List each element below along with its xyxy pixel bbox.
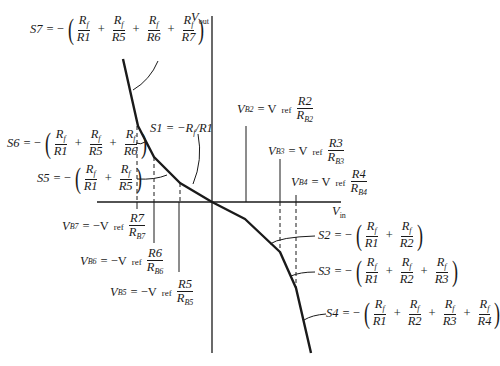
den: R7 xyxy=(181,31,197,44)
plus: + xyxy=(386,228,393,243)
vb6-equation: VB6 = −Vref R6RB6 xyxy=(80,247,166,277)
frac: R6RB6 xyxy=(146,247,165,277)
den: R3 xyxy=(434,273,450,286)
den: R5 xyxy=(118,180,134,193)
num-sub: f xyxy=(374,226,376,235)
s2-equation: S2 = − ( RfR1 + RfR2 ) xyxy=(318,220,423,250)
num: R5 xyxy=(177,278,193,292)
lhs-sub: B2 xyxy=(245,105,254,114)
lhs: V xyxy=(237,102,245,117)
close-paren: ) xyxy=(198,14,204,44)
open-paren: ( xyxy=(356,220,362,250)
den-sub: B6 xyxy=(154,267,163,276)
ref-sub: ref xyxy=(162,288,172,298)
num-sub: f xyxy=(191,20,193,29)
close-paren: ) xyxy=(417,220,423,250)
ref-sub: ref xyxy=(114,222,124,232)
den: R xyxy=(328,150,336,164)
num-sub: f xyxy=(444,262,446,271)
plus: + xyxy=(421,264,428,279)
frac: RfR7 xyxy=(181,14,197,44)
den-sub: B4 xyxy=(358,188,367,197)
plus: + xyxy=(429,306,436,321)
num-sub: f xyxy=(93,169,95,178)
den: R3 xyxy=(442,315,458,328)
num: R4 xyxy=(351,168,367,182)
s1-leader xyxy=(193,134,200,184)
den-sub: B5 xyxy=(184,298,193,307)
frac: RfR6 xyxy=(123,128,139,158)
num-sub: f xyxy=(487,304,489,313)
den-sub: B3 xyxy=(335,157,344,166)
sign: = V xyxy=(258,102,277,117)
s4-equation: S4 = − ( RfR1 + RfR2 + RfR3 + RfR4 ) xyxy=(326,298,500,328)
frac: RfR4 xyxy=(477,298,493,328)
lhs-sub: B6 xyxy=(88,257,97,266)
equals-neg: = − xyxy=(335,228,352,243)
frac: RfR1 xyxy=(53,128,69,158)
num-sub: f xyxy=(156,20,158,29)
lhs: V xyxy=(80,254,88,269)
vb5-equation: VB5 = −Vref R5RB5 xyxy=(110,278,196,308)
s1-tail: /R1 xyxy=(196,121,213,135)
den: R xyxy=(351,181,359,195)
frac: R5RB5 xyxy=(176,278,195,308)
close-paren: ) xyxy=(494,298,500,328)
num-sub: f xyxy=(409,226,411,235)
frac: RfR5 xyxy=(88,128,104,158)
lhs-sub: B3 xyxy=(276,147,285,156)
num-sub: f xyxy=(86,20,88,29)
plus: + xyxy=(133,22,140,37)
den: R5 xyxy=(88,145,104,158)
num-sub: f xyxy=(133,134,135,143)
frac: RfR1 xyxy=(76,14,92,44)
s1-expr: S1 = −R xyxy=(150,121,193,135)
num: R6 xyxy=(147,247,163,261)
frac: RfR1 xyxy=(364,220,380,250)
open-paren: ( xyxy=(356,256,362,286)
num-sub: f xyxy=(98,134,100,143)
s7-name: S7 xyxy=(30,22,43,37)
frac: RfR1 xyxy=(364,256,380,286)
lhs: V xyxy=(62,219,70,234)
plus: + xyxy=(98,22,105,37)
plus: + xyxy=(394,306,401,321)
sign: = −V xyxy=(131,285,157,300)
num-sub: f xyxy=(374,262,376,271)
equals-neg: = − xyxy=(24,136,41,151)
frac: R3RB3 xyxy=(327,137,346,167)
den-sub: B7 xyxy=(136,232,145,241)
den: R1 xyxy=(364,273,380,286)
s5-equation: S5 = − ( RfR1 + RfR5 ) xyxy=(37,163,142,193)
vb3-equation: VB3 = Vref R3RB3 xyxy=(268,137,347,167)
frac: RfR2 xyxy=(407,298,423,328)
num: R3 xyxy=(328,137,344,151)
num-sub: f xyxy=(452,304,454,313)
sign: = −V xyxy=(101,254,127,269)
s6-equation: S6 = − ( RfR1 + RfR5 + RfR6 ) xyxy=(7,128,147,158)
den: R5 xyxy=(111,31,127,44)
den-sub: B2 xyxy=(304,115,313,124)
vb4-equation: VB4 = Vref R4RB4 xyxy=(291,168,370,198)
s5-name: S5 xyxy=(37,171,50,186)
s1-equation: S1 = −Rf/R1 xyxy=(150,122,213,137)
frac: RfR5 xyxy=(111,14,127,44)
s7-leader xyxy=(133,61,158,90)
frac: RfR2 xyxy=(399,220,415,250)
plus: + xyxy=(110,136,117,151)
close-paren: ) xyxy=(141,128,147,158)
vin-symbol: V xyxy=(332,204,340,218)
close-paren: ) xyxy=(452,256,458,286)
sign: = V xyxy=(289,144,308,159)
plus: + xyxy=(464,306,471,321)
plus: + xyxy=(105,171,112,186)
vin-sub: in xyxy=(340,211,346,220)
ref-sub: ref xyxy=(336,178,346,188)
den: R2 xyxy=(407,315,423,328)
plus: + xyxy=(386,264,393,279)
frac: RfR1 xyxy=(83,163,99,193)
s7-equation: S7 = − ( RfR1 + RfR5 + RfR6 + RfR7 ) xyxy=(30,14,204,44)
den: R1 xyxy=(364,237,380,250)
vb2-equation: VB2 = Vref R2RB2 xyxy=(237,95,316,125)
sign: = V xyxy=(312,175,331,190)
